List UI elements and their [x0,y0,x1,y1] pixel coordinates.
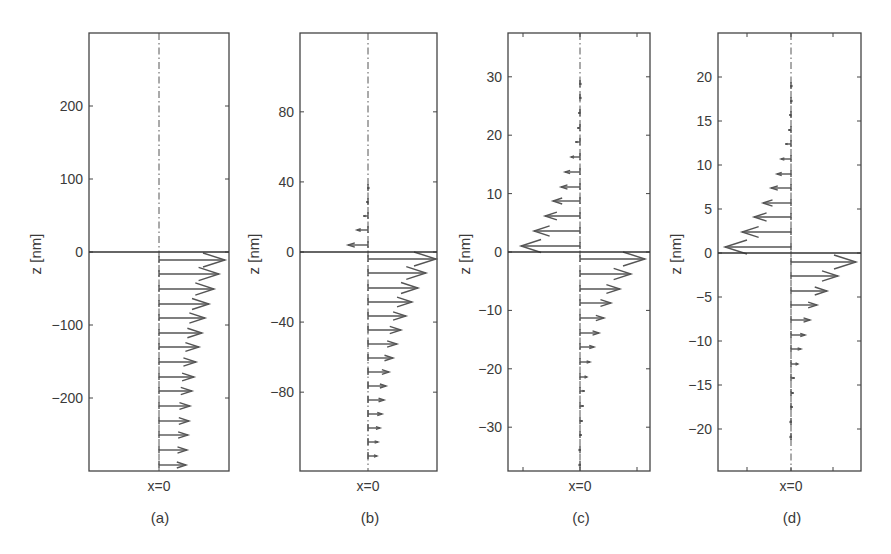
field-arrow [785,140,791,147]
field-arrow [791,316,810,323]
field-arrow [159,299,209,310]
field-arrow [159,358,196,366]
field-arrow [565,168,580,175]
panel-d-xlabel: x=0 [780,478,803,494]
field-arrow [742,227,791,238]
field-arrow [521,240,580,253]
y-tick-label: 40 [278,174,294,190]
field-arrow [579,446,582,453]
field-arrow [777,170,791,177]
field-arrow [791,374,795,381]
field-arrow [771,184,791,191]
field-arrow [580,343,594,350]
field-arrow [561,183,580,190]
field-arrow [357,226,368,233]
field-arrow [159,373,194,381]
field-arrow [790,433,793,440]
panel-c-xlabel: x=0 [569,478,592,494]
panel-b-xlabel: x=0 [357,478,380,494]
field-arrow [159,402,190,409]
field-arrow [159,313,205,323]
field-arrow [580,268,631,279]
field-arrow [159,343,199,352]
y-tick-label: 200 [60,98,84,114]
y-tick-label: 0 [704,245,712,261]
field-arrow [789,111,792,118]
field-arrow [159,267,219,280]
field-arrow [754,213,791,221]
field-arrow [159,387,192,395]
y-tick-label: −40 [270,314,294,330]
field-arrow [159,328,202,337]
field-arrow [368,326,401,334]
field-arrow [366,198,369,205]
field-arrow [575,138,580,145]
panel-d-ylabel: z [nm] [667,234,684,275]
y-tick-label: 0 [286,244,294,260]
field-arrow [545,212,580,220]
field-arrow [725,240,791,254]
panel-c-caption: (c) [572,509,590,526]
field-arrow [368,267,426,280]
y-tick-label: 0 [75,244,83,260]
field-arrow [159,417,189,424]
field-arrow [781,155,791,162]
field-arrow [790,97,793,104]
y-tick-label: −20 [478,361,502,377]
field-arrow [580,402,584,409]
field-arrow [368,382,386,389]
field-arrow [579,80,582,87]
panel-d: −20−15−10−505101520 [688,33,861,471]
y-tick-label: 15 [696,113,712,129]
panel-b-ylabel: z [nm] [245,234,262,275]
panel-a-caption: (a) [151,509,169,526]
y-tick-label: −200 [51,390,83,406]
y-tick-label: 10 [486,186,502,202]
field-arrow [580,431,583,438]
field-arrow [791,287,827,295]
field-arrow [578,109,581,116]
y-tick-label: 5 [704,201,712,217]
field-arrow [553,197,580,204]
field-arrow [368,438,378,445]
field-arrow [791,271,838,281]
field-arrow [791,345,801,352]
field-arrow [788,126,791,133]
field-arrow [580,417,583,424]
field-arrow [159,446,187,453]
field-arrow [159,283,214,295]
field-arrow [368,312,406,320]
y-tick-label: −30 [478,419,502,435]
field-arrow [580,252,645,266]
field-arrow [580,285,620,294]
field-arrow [580,299,611,306]
y-tick-label: −20 [688,421,712,437]
field-arrow [368,252,436,266]
y-tick-label: 30 [486,69,502,85]
field-arrow [368,396,384,403]
field-arrow [368,354,393,361]
field-arrow [159,461,186,468]
field-arrow [368,410,382,417]
y-tick-label: 10 [696,157,712,173]
y-tick-label: 20 [696,69,712,85]
field-arrow [571,153,580,160]
field-arrow [363,212,368,219]
field-arrow [580,358,590,365]
field-arrow [791,360,798,367]
field-arrow [368,283,418,294]
field-arrow [791,301,817,308]
quiver-figure: −200−1000100200 −80−4004080 −30−20−10010… [0,0,891,554]
field-arrow [368,340,397,347]
field-arrow [577,124,580,131]
y-tick-label: −10 [688,333,712,349]
field-arrow [790,418,793,425]
field-arrow [580,329,599,336]
field-arrow [368,452,377,459]
field-arrow [579,461,582,468]
panel-b: −80−4004080 [270,33,437,471]
field-arrow [367,184,370,191]
y-tick-label: −5 [696,289,712,305]
field-arrow [580,387,585,394]
field-arrow [579,94,582,101]
